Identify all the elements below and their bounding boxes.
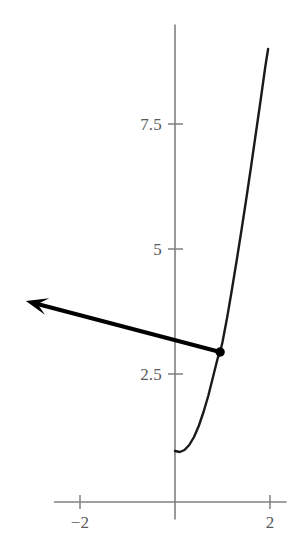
- y-tick-label-7_5: 7.5: [126, 116, 162, 133]
- x-tick-label-minus-2: −2: [60, 514, 100, 531]
- y-tick-label-5: 5: [126, 241, 162, 258]
- tangent-line: [36, 304, 220, 352]
- y-tick-label-2_5: 2.5: [126, 366, 162, 383]
- plot-figure: 7.5 5 2.5 −2 2: [0, 0, 290, 556]
- tangent-group: [26, 298, 220, 352]
- plot-canvas: [0, 0, 290, 556]
- tangent-point-marker: [215, 347, 224, 356]
- curve-group: [175, 49, 268, 452]
- x-tick-label-2: 2: [252, 514, 288, 531]
- function-curve: [175, 49, 268, 452]
- axes-group: [54, 25, 287, 520]
